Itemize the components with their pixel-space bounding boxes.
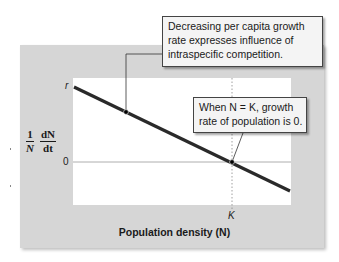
callout-1-leader [126, 54, 162, 112]
x-axis-label: Population density (N) [0, 226, 339, 238]
scan-speck [10, 148, 11, 150]
callout-2-line-1: When N = K, growth [199, 100, 301, 114]
callout-carrying-capacity: When N = K, growth rate of population is… [193, 97, 307, 133]
competition-point [124, 110, 129, 115]
x-tick-k: K [228, 210, 235, 221]
callout-2-line-2: rate of population is 0. [199, 114, 301, 128]
scan-speck [10, 185, 11, 187]
callout-1-line-1: Decreasing per capita growth [168, 19, 317, 33]
callout-1-line-2: rate expresses influence of [168, 33, 317, 47]
y-tick-r: r [65, 80, 68, 91]
callout-1-line-3: intraspecific competition. [168, 47, 317, 61]
callout-2-leader [232, 133, 243, 162]
y-label-fraction-dn-over-dt: dN dt [40, 129, 56, 154]
callout-competition: Decreasing per capita growth rate expres… [162, 16, 323, 67]
y-tick-zero: 0 [63, 156, 69, 167]
y-axis-label: 1 N dN dt [26, 129, 56, 154]
k-point [230, 160, 235, 165]
y-label-fraction-1-over-n: 1 N [26, 129, 34, 154]
